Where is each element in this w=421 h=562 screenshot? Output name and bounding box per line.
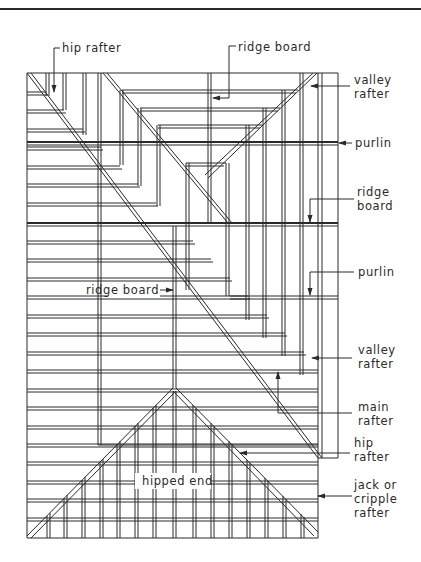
label-line: rafter — [358, 357, 396, 371]
label-line: rafter — [354, 506, 397, 520]
label-ridge-board-top: ridge board — [238, 40, 311, 54]
label-line: valley — [354, 73, 392, 87]
label-line: jack or — [354, 478, 397, 492]
label-line: rafter — [358, 414, 394, 428]
label-line: valley — [358, 343, 396, 357]
label-purlin-upper: purlin — [355, 136, 392, 150]
label-line: hip — [354, 436, 390, 450]
label-line: ridge — [357, 185, 393, 199]
label-purlin-lower: purlin — [358, 265, 395, 279]
label-hipped-end: hipped end — [142, 474, 213, 488]
label-main-rafter: main rafter — [358, 400, 394, 428]
label-line: cripple — [354, 492, 397, 506]
label-hip-rafter-top: hip rafter — [62, 41, 121, 55]
label-hip-rafter-bottom: hip rafter — [354, 436, 390, 464]
label-ridge-board-right: ridge board — [357, 185, 393, 213]
label-line: main — [358, 400, 394, 414]
label-valley-rafter-top: valley rafter — [354, 73, 392, 101]
label-valley-rafter-bottom: valley rafter — [358, 343, 396, 371]
label-jack-rafter: jack or cripple rafter — [354, 478, 397, 520]
label-line: rafter — [354, 450, 390, 464]
label-line: rafter — [354, 87, 392, 101]
label-ridge-board-left: ridge board — [86, 283, 159, 297]
label-line: board — [357, 199, 393, 213]
